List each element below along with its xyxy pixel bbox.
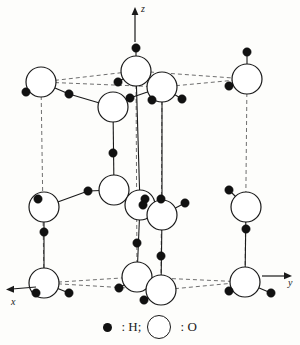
hydrogen-atom xyxy=(157,195,165,203)
legend: : H; : O xyxy=(0,315,300,339)
hydrogen-atom xyxy=(225,287,233,295)
hydrogen-atom xyxy=(139,201,147,209)
axis-label-x: x xyxy=(10,296,16,307)
x-arrowhead xyxy=(6,286,14,293)
hydrogen-atom xyxy=(65,289,73,297)
hydrogen-atom xyxy=(225,186,233,194)
hydrogen-atom xyxy=(140,296,148,304)
legend-hydrogen-label: : H; xyxy=(118,319,141,335)
hydrogen-atom xyxy=(40,228,48,236)
oxygen-atom xyxy=(98,92,128,122)
hydrogen-atom xyxy=(242,225,250,233)
hydrogen-atom xyxy=(115,284,123,292)
unit-cell-edges xyxy=(41,71,247,290)
hydrogen-atom xyxy=(32,289,40,297)
hydrogen-atom xyxy=(157,252,165,260)
hydrogen-atom xyxy=(243,48,251,56)
oxygen-atom xyxy=(29,192,59,222)
oxygen-atom xyxy=(231,192,261,222)
hydrogen-legend-icon xyxy=(103,323,112,332)
hydrogen-atom xyxy=(225,82,233,90)
axis-z: z xyxy=(132,3,145,42)
hydrogen-atom xyxy=(22,88,30,96)
oxygen-atom xyxy=(147,200,177,230)
axis-y: y xyxy=(262,272,293,288)
hydrogen-atom xyxy=(132,44,140,52)
oxygen-atom xyxy=(26,67,56,97)
axis-label-z: z xyxy=(140,3,145,14)
hydrogen-atom xyxy=(84,187,92,195)
ice-lattice-svg: z x y xyxy=(0,0,300,345)
hydrogen-atom xyxy=(178,95,186,103)
oxygen-atom xyxy=(232,64,262,94)
hydrogen-atom xyxy=(133,239,141,247)
oxygen-atom xyxy=(99,175,129,205)
hydrogen-atom xyxy=(65,90,73,98)
axis-label-y: y xyxy=(287,277,293,288)
ice-structure-figure: z x y : H; : O xyxy=(0,0,300,345)
hydrogen-atom xyxy=(114,78,122,86)
hydrogen-atom xyxy=(126,94,134,102)
hydrogen-atom xyxy=(148,96,156,104)
oxygen-atom xyxy=(121,56,151,86)
legend-oxygen-label: : O xyxy=(177,319,197,335)
z-arrowhead xyxy=(132,7,139,15)
hydrogen-atom xyxy=(109,149,117,157)
hydrogen-atom xyxy=(267,289,275,297)
oxygen-atom xyxy=(230,267,260,297)
oxygen-atom xyxy=(146,275,176,305)
hydrogen-atom xyxy=(181,199,189,207)
hydrogen-atom xyxy=(34,195,42,203)
oxygen-legend-icon xyxy=(147,315,171,339)
